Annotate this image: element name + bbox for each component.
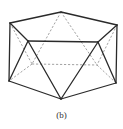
figure-caption: (b) bbox=[0, 110, 123, 120]
visible-edge-left-bottom-to-bottom-apex bbox=[9, 81, 61, 99]
visible-edge-front-left-upper-to-left-bottom bbox=[9, 41, 28, 81]
visible-edge-left-top-to-left-bottom bbox=[9, 23, 10, 81]
visible-edge-left-top-to-front-left-upper bbox=[10, 23, 28, 41]
visible-edge-front-left-upper-to-front-right-upper bbox=[28, 41, 98, 42]
visible-edge-front-left-upper-to-bottom-apex bbox=[28, 41, 61, 99]
hidden-edge-back-right-lower-to-right-bottom bbox=[97, 65, 116, 83]
hidden-edge-top-apex-to-back-right-lower bbox=[61, 12, 97, 65]
visible-edge-left-top-to-top-apex bbox=[10, 12, 61, 23]
visible-edge-right-top-to-right-bottom bbox=[116, 25, 117, 83]
visible-edge-top-apex-to-right-top bbox=[61, 12, 117, 25]
visible-edge-right-top-to-front-right-upper bbox=[98, 25, 117, 42]
visible-edge-front-right-upper-to-right-bottom bbox=[98, 42, 116, 83]
